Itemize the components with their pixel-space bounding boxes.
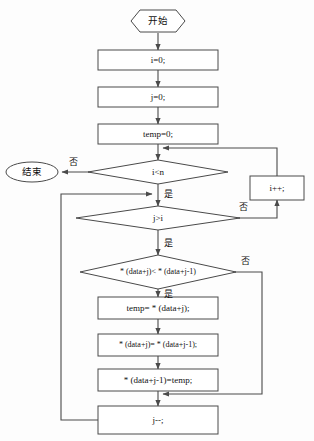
end-label: 结束 — [22, 166, 42, 177]
edge-label-cond-i-yes: 是 — [164, 189, 173, 199]
edge-label-cond-j-yes: 是 — [164, 238, 173, 248]
node-swap2[interactable]: * (data+j)= * (data+j-1); — [98, 334, 218, 356]
node-cond-j[interactable]: j>i — [76, 206, 240, 230]
node-end[interactable]: 结束 — [6, 162, 58, 182]
node-cond-i[interactable]: i<n — [88, 160, 228, 184]
init-j-label: j=0; — [150, 92, 166, 102]
node-init-i[interactable]: i=0; — [98, 50, 218, 70]
swap2-label: * (data+j)= * (data+j-1); — [119, 340, 197, 349]
cond-i-label: i<n — [152, 167, 165, 177]
node-init-j[interactable]: j=0; — [98, 87, 218, 107]
edge-label-cond-j-no: 否 — [239, 202, 248, 212]
decr-j-label: j--; — [152, 415, 164, 425]
init-temp-label: temp=0; — [143, 129, 173, 139]
swap1-label: temp= * (data+j); — [126, 303, 189, 313]
flowchart-svg: 开始 i=0; j=0; temp=0; i<n 结束 — [0, 0, 314, 441]
init-i-label: i=0; — [151, 55, 166, 65]
node-swap1[interactable]: temp= * (data+j); — [98, 297, 218, 319]
edge-label-cond-cmp-yes: 是 — [164, 289, 173, 299]
incr-i-label: i++; — [269, 183, 284, 193]
node-start[interactable]: 开始 — [131, 10, 185, 32]
cond-cmp-label: * (data+j)< * (data+j-1) — [120, 267, 196, 276]
swap3-label: * (data+j-1)=temp; — [124, 375, 192, 385]
edge-label-cond-i-no: 否 — [69, 157, 78, 167]
start-label: 开始 — [148, 15, 168, 26]
flowchart-canvas: 开始 i=0; j=0; temp=0; i<n 结束 — [0, 0, 314, 441]
node-swap3[interactable]: * (data+j-1)=temp; — [98, 369, 218, 391]
node-decr-j[interactable]: j--; — [98, 406, 218, 434]
edge-label-cond-cmp-no: 否 — [241, 256, 250, 266]
node-incr-i[interactable]: i++; — [250, 176, 304, 200]
node-cond-cmp[interactable]: * (data+j)< * (data+j-1) — [80, 255, 236, 289]
edge-cond-j-no-to-incr-i — [222, 200, 277, 218]
node-init-temp[interactable]: temp=0; — [98, 124, 218, 144]
cond-j-label: j>i — [152, 213, 164, 223]
